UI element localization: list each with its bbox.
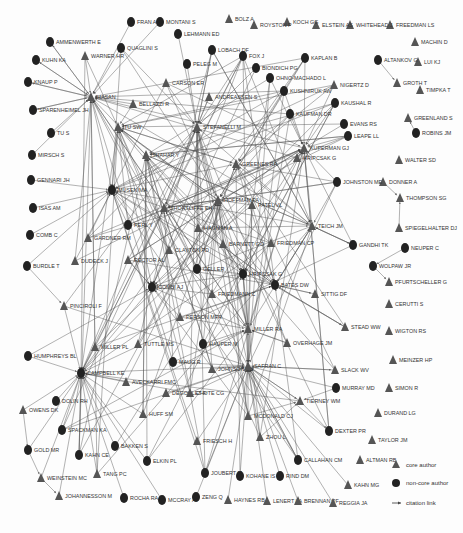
author-label: BAKKEN S bbox=[121, 443, 148, 449]
noncore-author-node[interactable]: JOHNSTON ME bbox=[333, 177, 383, 187]
core-author-node[interactable]: DONNER A bbox=[379, 177, 418, 186]
noncore-author-node[interactable]: HUMPHREYS BL bbox=[24, 351, 77, 361]
noncore-author-node[interactable]: COMBI AJ bbox=[148, 282, 183, 292]
core-author-node[interactable]: BOLZ A bbox=[225, 14, 254, 23]
core-author-node[interactable]: GARDNER RM bbox=[84, 233, 131, 242]
core-author-node[interactable]: SIMON R bbox=[385, 383, 418, 392]
core-author-node[interactable]: ROYSTON P bbox=[250, 20, 292, 29]
noncore-author-node[interactable]: ZENG Q bbox=[192, 492, 223, 502]
noncore-author-node[interactable]: GELLER bbox=[193, 264, 224, 274]
noncore-author-node[interactable]: KAUSHAL R bbox=[331, 98, 371, 108]
core-author-node[interactable]: BELLAZZI R bbox=[129, 99, 169, 108]
core-author-node[interactable]: TIERNEY WM bbox=[296, 396, 341, 405]
core-author-node[interactable]: TAYLOR JM bbox=[368, 435, 408, 444]
core-author-node[interactable]: SHAHAR Y bbox=[142, 150, 180, 159]
noncore-author-node[interactable]: LEAPE LL bbox=[344, 131, 379, 141]
noncore-author-node[interactable]: FOX J bbox=[239, 51, 265, 61]
core-author-node[interactable]: WALTER SD bbox=[395, 155, 436, 164]
core-author-node[interactable]: KAHN MG bbox=[344, 480, 379, 489]
core-author-node[interactable]: WIGTON RS bbox=[385, 326, 426, 335]
core-author-node[interactable]: NIGERTZ D bbox=[330, 80, 369, 89]
noncore-author-node[interactable]: ALTANKOV G bbox=[374, 55, 418, 65]
core-author-node[interactable]: GROTH T bbox=[393, 78, 428, 87]
core-author-node[interactable]: CARSON ER bbox=[162, 78, 204, 87]
core-author-node[interactable]: ZHOU L bbox=[256, 432, 286, 441]
noncore-author-node[interactable]: FRAN A bbox=[127, 17, 157, 27]
noncore-author-node[interactable]: ROBINS JM bbox=[412, 128, 452, 138]
core-author-node[interactable]: SLACK WV bbox=[331, 365, 369, 374]
core-author-node[interactable]: STEAD WW bbox=[341, 322, 382, 331]
noncore-author-node[interactable]: KAPLAN B bbox=[301, 53, 338, 63]
noncore-author-node[interactable]: LEHMANN ED bbox=[174, 29, 219, 39]
noncore-author-node[interactable]: ISAS AM bbox=[29, 203, 61, 213]
noncore-author-node[interactable]: AMMENWERTH E bbox=[46, 37, 101, 47]
core-author-node[interactable]: TANG PC bbox=[93, 469, 127, 478]
noncore-author-node[interactable]: MONTANI S bbox=[156, 17, 196, 27]
triangle-icon bbox=[55, 491, 63, 500]
core-author-node[interactable]: HAYNES RB bbox=[224, 495, 265, 504]
noncore-author-node[interactable]: KNAUP P bbox=[24, 77, 58, 87]
noncore-author-node[interactable]: BIONDICH PG bbox=[252, 63, 298, 73]
noncore-author-node[interactable]: MIRSCH S bbox=[28, 150, 65, 160]
noncore-author-node[interactable]: MUSEN MA bbox=[108, 185, 147, 195]
noncore-author-node[interactable]: HAUPER M bbox=[199, 339, 238, 349]
core-author-node[interactable]: JOHANNESSON M bbox=[55, 491, 113, 500]
core-author-node[interactable]: ALTMAN RB bbox=[356, 455, 397, 464]
core-author-node[interactable]: KUPERMAN GJ bbox=[300, 143, 349, 152]
core-author-node[interactable]: OVERHAGE JM bbox=[283, 338, 333, 347]
core-author-node[interactable]: WHITEHEAD J bbox=[346, 20, 393, 29]
core-author-node[interactable]: TEICH JM bbox=[308, 221, 343, 230]
noncore-author-node[interactable]: KUHN KA bbox=[32, 55, 66, 65]
noncore-author-node[interactable]: MURRAY MD bbox=[332, 383, 375, 393]
noncore-author-node[interactable]: SPARENHEIMEL JH bbox=[29, 105, 89, 115]
core-author-node[interactable]: LUI KJ bbox=[414, 57, 440, 66]
core-author-node[interactable]: HASAN bbox=[87, 92, 116, 101]
core-author-node[interactable]: FRIEDMANN C bbox=[208, 289, 256, 298]
core-author-node[interactable]: WARNER HR bbox=[81, 51, 124, 60]
core-author-node[interactable]: TU SW bbox=[114, 122, 142, 131]
noncore-author-node[interactable]: PELEG M bbox=[183, 59, 217, 69]
noncore-author-node[interactable]: ELKIN PL bbox=[143, 456, 177, 466]
core-author-node[interactable]: THOMPSON SG bbox=[396, 193, 446, 202]
core-author-node[interactable]: FRIEDMAN CP bbox=[267, 238, 315, 247]
noncore-author-node[interactable]: GOLD MR bbox=[24, 445, 59, 455]
core-author-node[interactable]: GREENLAND S bbox=[404, 113, 453, 122]
noncore-author-node[interactable]: COMB C bbox=[26, 230, 58, 240]
noncore-author-node[interactable]: BURDLE T bbox=[23, 261, 60, 271]
noncore-author-node[interactable]: RIND DM bbox=[276, 471, 310, 481]
core-author-node[interactable]: GREENES RA bbox=[232, 159, 278, 168]
noncore-author-node[interactable]: DOLIN RH bbox=[52, 396, 88, 406]
author-label: MCDONALD CJ bbox=[254, 413, 293, 419]
core-author-node[interactable]: PFURTSCHELLER G bbox=[385, 277, 447, 286]
core-author-node[interactable]: FRIESCH H bbox=[193, 436, 232, 445]
author-label: TU SW bbox=[124, 124, 142, 130]
noncore-author-node[interactable]: KAHN CE bbox=[75, 450, 109, 460]
noncore-author-node[interactable]: TU S bbox=[47, 128, 70, 138]
core-author-node[interactable]: SAFRAN C bbox=[244, 361, 281, 370]
core-author-node[interactable]: AVECKARRI FMC bbox=[122, 377, 176, 386]
noncore-author-node[interactable]: ROCHA RA bbox=[120, 493, 159, 503]
core-author-node[interactable]: OWENS DK bbox=[19, 405, 59, 414]
core-author-node[interactable]: CERUTTI S bbox=[385, 299, 424, 308]
noncore-author-node[interactable]: KUSHNIRUK AW bbox=[280, 86, 332, 96]
noncore-author-node[interactable]: DEXTER PR bbox=[325, 426, 366, 436]
noncore-author-node[interactable]: WOLPAW JR bbox=[369, 261, 411, 271]
core-author-node[interactable]: SPIEGELHALTER DJ bbox=[395, 223, 457, 232]
noncore-author-node[interactable]: EVANS RS bbox=[340, 119, 377, 129]
core-author-node[interactable]: HAGMAN A bbox=[194, 223, 233, 232]
core-author-node[interactable]: MCDONALD CJ bbox=[244, 411, 293, 420]
core-author-node[interactable]: WEINSTEIN MC bbox=[37, 473, 87, 482]
core-author-node[interactable]: DURAND LG bbox=[374, 408, 416, 417]
core-author-node[interactable]: FREEDMAN LS bbox=[386, 20, 435, 29]
noncore-author-node[interactable]: CALLAHAN CM bbox=[294, 455, 343, 465]
noncore-author-node[interactable]: NEUPER C bbox=[401, 243, 439, 253]
noncore-author-node[interactable]: GANDHI TK bbox=[349, 240, 389, 250]
noncore-author-node[interactable]: OHNO-MACHADO L bbox=[266, 73, 326, 83]
noncore-author-node[interactable]: GENNARI JH bbox=[27, 175, 70, 185]
core-author-node[interactable]: MACHIN D bbox=[411, 37, 448, 46]
core-author-node[interactable]: TIMPKA T bbox=[416, 85, 451, 94]
author-label: TAYLOR JM bbox=[378, 437, 408, 443]
noncore-author-node[interactable]: QUAGLINI S bbox=[117, 43, 158, 53]
noncore-author-node[interactable]: KOHANE IS bbox=[236, 471, 276, 481]
core-author-node[interactable]: MEINZER HP bbox=[389, 355, 433, 364]
